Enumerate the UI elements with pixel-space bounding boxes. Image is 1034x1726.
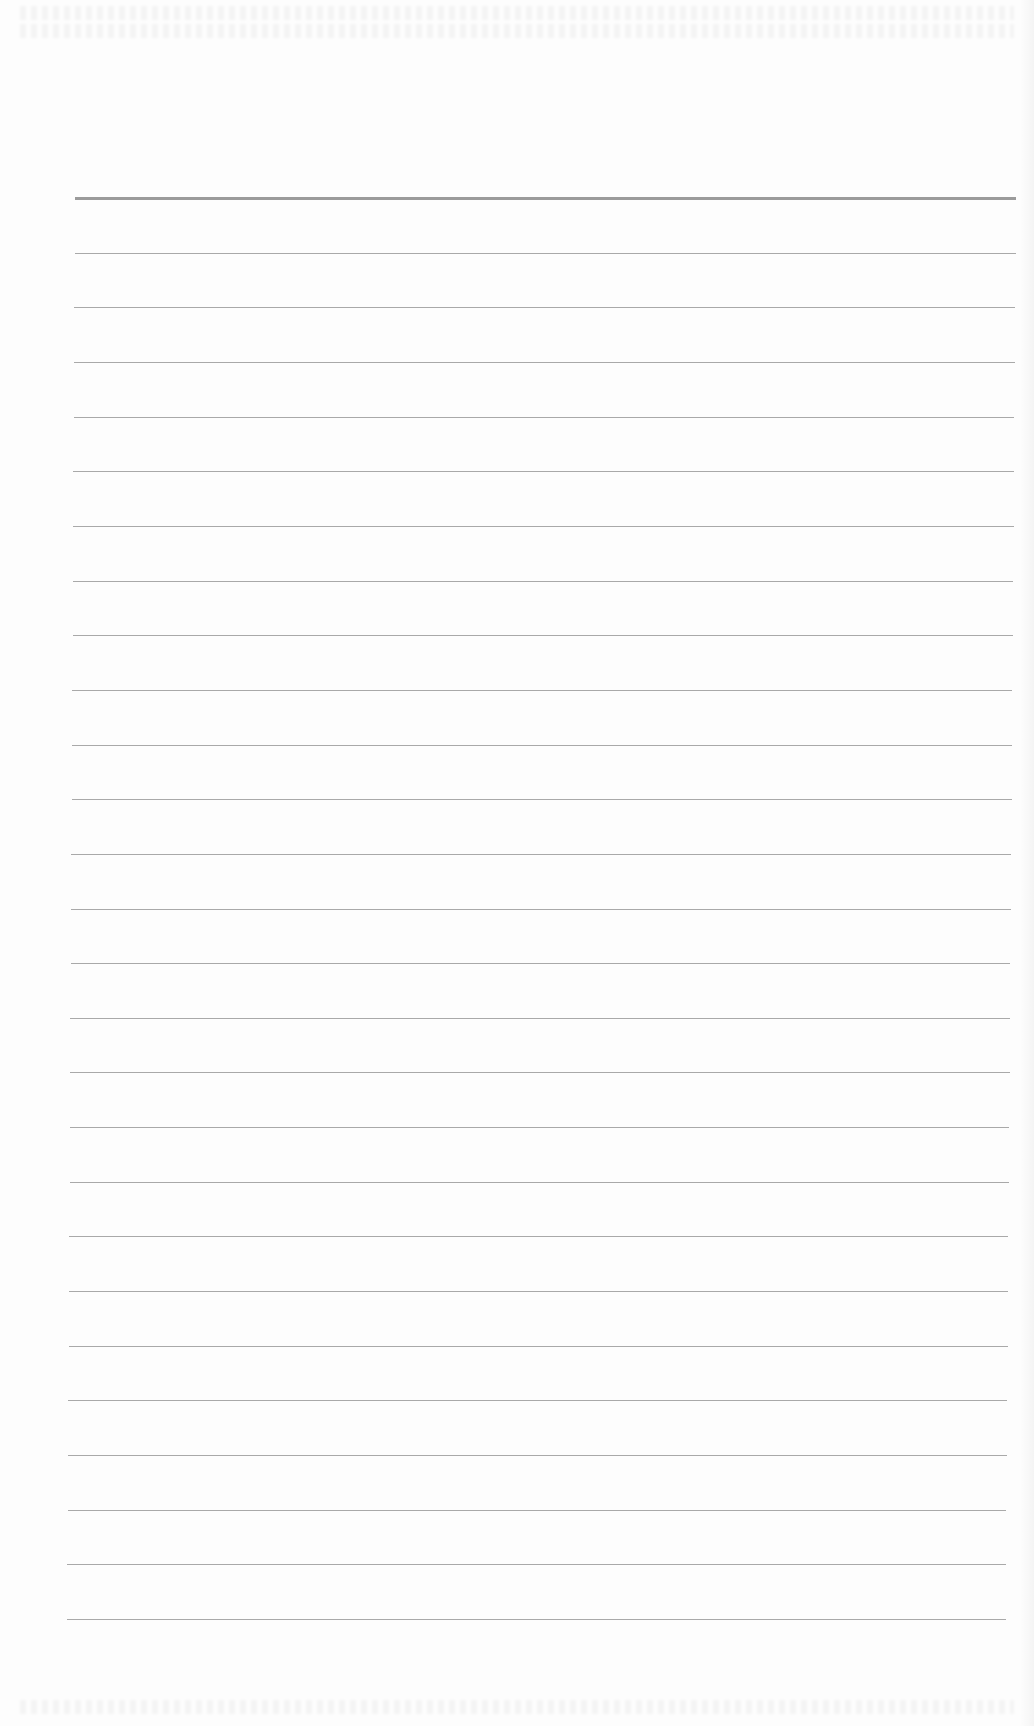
bleed-through-text [20, 1700, 1014, 1714]
ruled-line [67, 1564, 1006, 1565]
ruled-line [71, 909, 1011, 910]
ruled-line [73, 581, 1013, 582]
bleed-through-text [20, 6, 1014, 20]
ruled-line [75, 253, 1016, 254]
ruled-line [72, 745, 1012, 746]
ruled-line [75, 197, 1016, 200]
ruled-line [73, 526, 1014, 527]
ruled-line [73, 635, 1013, 636]
ruled-line [68, 1400, 1007, 1401]
ruled-line [70, 1018, 1010, 1019]
ruled-line [71, 963, 1010, 964]
ruled-line [67, 1619, 1006, 1620]
ruled-line [72, 690, 1012, 691]
ruled-line [71, 854, 1011, 855]
ruled-line [68, 1510, 1006, 1511]
ruled-line [74, 417, 1014, 418]
ruled-line [70, 1182, 1009, 1183]
ruled-line [69, 1291, 1008, 1292]
ruled-line [69, 1346, 1008, 1347]
ruled-line [74, 307, 1015, 308]
ruled-line [74, 362, 1015, 363]
ruled-line [73, 471, 1014, 472]
ruled-line [72, 799, 1012, 800]
scan-edge-shadow [1020, 0, 1034, 1726]
ruled-line [68, 1455, 1007, 1456]
ruled-line [70, 1072, 1010, 1073]
lined-page [0, 0, 1034, 1726]
ruled-line [69, 1236, 1008, 1237]
bleed-through-text [20, 24, 1014, 38]
ruled-line [70, 1127, 1009, 1128]
